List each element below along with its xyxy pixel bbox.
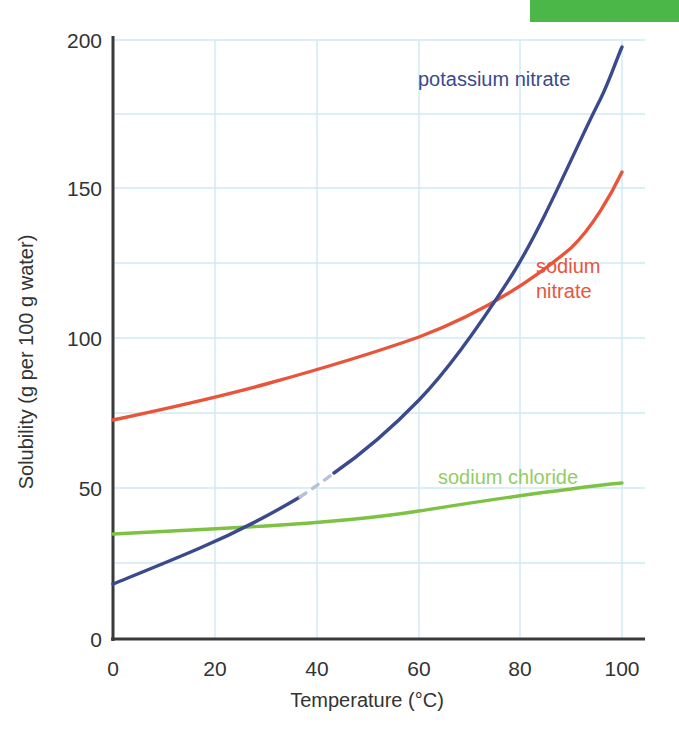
series-label-sodium-chloride: sodium chloride	[438, 466, 578, 488]
x-tick-label-60: 60	[407, 657, 430, 680]
x-axis-title: Temperature (°C)	[290, 689, 444, 711]
series-line-potassium-nitrate-segment-1	[113, 497, 300, 584]
y-tick-label-50: 50	[79, 477, 102, 500]
solubility-chart-figure: 200 150 100 50 0 0 20 40 60 80 100 Tempe…	[0, 0, 679, 736]
x-tick-label-20: 20	[203, 657, 226, 680]
y-tick-label-100: 100	[67, 327, 102, 350]
chart-plot-area: 200 150 100 50 0 0 20 40 60 80 100 Tempe…	[0, 0, 679, 736]
x-tick-label-40: 40	[305, 657, 328, 680]
x-tick-label-100: 100	[604, 657, 639, 680]
vertical-gridlines	[215, 40, 622, 639]
y-tick-label-200: 200	[67, 29, 102, 52]
y-tick-label-150: 150	[67, 177, 102, 200]
series-label-potassium-nitrate: potassium nitrate	[418, 68, 570, 90]
series-line-sodium-chloride	[113, 483, 622, 534]
series-label-sodium-nitrate-line1: sodium	[536, 255, 600, 277]
y-tick-label-0: 0	[90, 628, 102, 651]
x-tick-label-80: 80	[508, 657, 531, 680]
x-tick-label-0: 0	[107, 657, 119, 680]
y-axis-title: Solubility (g per 100 g water)	[15, 235, 37, 490]
series-label-sodium-nitrate-line2: nitrate	[536, 280, 592, 302]
